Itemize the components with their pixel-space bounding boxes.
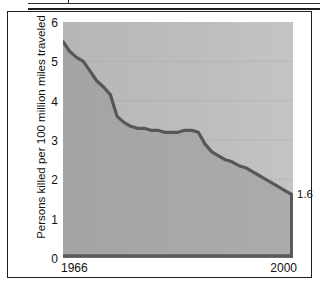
chart-figure: Persons killed per 100 million miles tra… [0,0,324,292]
plot-area [63,22,293,258]
y-tick-3: 3 [38,135,58,147]
y-tick-2: 2 [38,174,58,186]
y-tick-5: 5 [38,56,58,68]
page-rule-tick [68,0,69,4]
page-rule-top [28,3,320,4]
x-axis-tick-labels: 1966 2000 [63,262,293,280]
y-tick-4: 4 [38,96,58,108]
chart-svg [63,22,293,258]
x-tick-end: 2000 [270,262,297,274]
page-rule-second [28,8,320,10]
end-value-annotation: 1.6 [297,189,313,201]
y-tick-1: 1 [38,214,58,226]
y-axis-tick-labels: 6 5 4 3 2 1 0 [36,22,58,258]
y-tick-0: 0 [38,253,58,265]
y-tick-6: 6 [38,17,58,29]
x-tick-start: 1966 [61,262,88,274]
